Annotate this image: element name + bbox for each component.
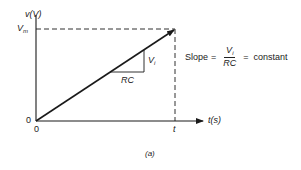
triangle-run-label: RC	[121, 76, 134, 85]
slope-fraction: Vi RC	[223, 46, 236, 68]
slope-prefix: Slope	[185, 52, 208, 62]
y-axis-label: v(V)	[25, 10, 42, 19]
figure-caption: (a)	[145, 150, 155, 158]
slope-equals-1: =	[211, 52, 216, 62]
vm-tick-label: Vm	[17, 24, 28, 34]
fraction-denominator: RC	[223, 58, 236, 68]
x-axis-label: t(s)	[208, 116, 221, 125]
x-origin-label: 0	[34, 125, 39, 134]
x-axis-label-unit: (s)	[211, 115, 222, 125]
ramp-line	[36, 30, 174, 121]
triangle-rise-label: Vi	[148, 56, 155, 66]
vm-tick-sub: m	[23, 28, 28, 34]
fraction-numerator: Vi	[224, 46, 235, 58]
slope-result: constant	[254, 52, 288, 62]
y-axis-label-unit: (V)	[30, 9, 42, 19]
slope-equation: Slope = Vi RC = constant	[185, 44, 288, 70]
ramp-voltage-plot	[0, 0, 301, 170]
rise-sub: i	[154, 60, 155, 66]
numerator-sub: i	[232, 50, 233, 56]
slope-equals-2: =	[243, 52, 248, 62]
t-tick-label: t	[173, 125, 176, 134]
y-origin-label: 0	[26, 116, 31, 125]
